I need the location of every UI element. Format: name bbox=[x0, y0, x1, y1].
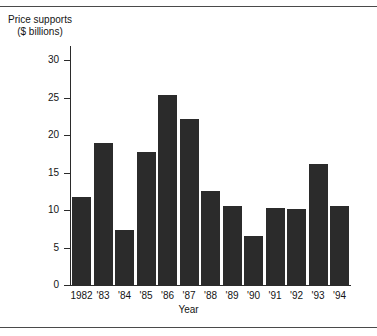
y-axis-tick-label: 15 bbox=[19, 168, 59, 178]
bar-slot bbox=[157, 46, 178, 285]
bar-90[interactable] bbox=[244, 236, 263, 286]
x-axis-tick-label: '94 bbox=[323, 290, 357, 301]
bar-83[interactable] bbox=[94, 143, 113, 286]
bar-slot bbox=[200, 46, 221, 285]
y-axis-tick bbox=[64, 248, 70, 249]
y-axis-tick-label: 10 bbox=[19, 205, 59, 215]
bar-87[interactable] bbox=[180, 119, 199, 286]
bar-slot bbox=[308, 46, 329, 285]
bar-86[interactable] bbox=[158, 95, 177, 285]
bar-slot bbox=[136, 46, 157, 285]
bar-slot bbox=[93, 46, 114, 285]
chart-figure: Price supports ($ billions) 051015202530… bbox=[0, 0, 377, 336]
y-axis-tick-label: 30 bbox=[19, 55, 59, 65]
y-axis-tick bbox=[64, 173, 70, 174]
y-axis-tick bbox=[64, 60, 70, 61]
bar-92[interactable] bbox=[287, 209, 306, 285]
y-axis-tick-label: 5 bbox=[19, 243, 59, 253]
x-axis-line bbox=[70, 285, 351, 286]
bar-85[interactable] bbox=[137, 152, 156, 286]
bar-slot bbox=[265, 46, 286, 285]
y-axis-tick-label: 20 bbox=[19, 130, 59, 140]
y-axis-tick-label: 25 bbox=[19, 93, 59, 103]
bar-94[interactable] bbox=[330, 206, 349, 285]
bar-series bbox=[71, 46, 350, 285]
y-axis-tick bbox=[64, 285, 70, 286]
y-axis-tick bbox=[64, 135, 70, 136]
plot-area: 051015202530 1982'83'84'85'86'87'88'89'9… bbox=[0, 0, 377, 336]
bar-88[interactable] bbox=[201, 191, 220, 285]
bar-slot bbox=[222, 46, 243, 285]
bar-slot bbox=[286, 46, 307, 285]
x-axis-title: Year bbox=[0, 304, 377, 315]
bar-93[interactable] bbox=[309, 164, 328, 286]
bar-slot bbox=[179, 46, 200, 285]
bar-slot bbox=[71, 46, 92, 285]
bar-slot bbox=[329, 46, 350, 285]
bar-slot bbox=[243, 46, 264, 285]
bar-84[interactable] bbox=[115, 230, 134, 286]
bar-89[interactable] bbox=[223, 206, 242, 286]
y-axis-tick bbox=[64, 98, 70, 99]
y-axis-tick bbox=[64, 210, 70, 211]
bar-91[interactable] bbox=[266, 208, 285, 285]
bar-slot bbox=[114, 46, 135, 285]
bar-1982[interactable] bbox=[72, 197, 91, 286]
y-axis-tick-label: 0 bbox=[19, 280, 59, 290]
